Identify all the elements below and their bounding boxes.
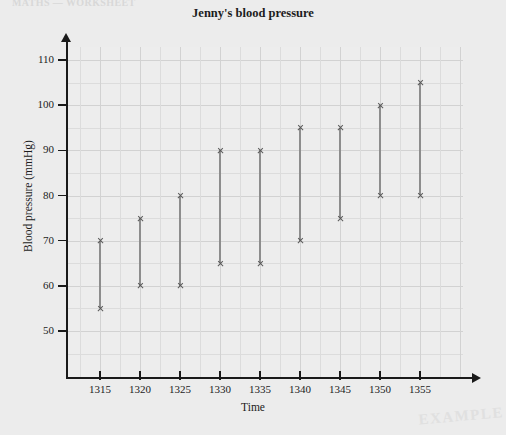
gridline-horizontal [66,173,463,174]
gridline-horizontal [66,105,463,106]
chart-title: Jenny's blood pressure [0,6,506,21]
x-axis-tick [179,371,180,380]
gridline-horizontal [66,150,463,151]
y-axis-tick [58,330,67,331]
marker-high-cross-icon [177,192,184,199]
marker-low-cross-icon [137,282,144,289]
x-axis-tick-label: 1355 [397,383,443,395]
y-axis-tick-label-text: 110 [24,53,54,65]
plot-area [66,47,463,377]
marker-high-cross-icon [297,124,304,131]
marker-low-cross-icon [217,260,224,267]
gridline-vertical [400,47,401,377]
marker-low-cross-icon [97,305,104,312]
gridline-horizontal [66,331,463,332]
gridline-horizontal [66,286,463,287]
y-axis-tick-label-text: 50 [24,324,54,336]
marker-high-cross-icon [137,215,144,222]
y-axis-tick [58,195,67,196]
marker-low-cross-icon [177,282,184,289]
y-axis-tick [58,285,67,286]
y-axis-label: Blood pressure (mmHg) [22,96,34,296]
gridline-vertical [120,47,121,377]
x-axis-tick [99,371,100,380]
gridline-vertical [380,47,381,377]
y-axis-tick [58,59,67,60]
marker-high-cross-icon [257,147,264,154]
gridline-vertical [360,47,361,377]
marker-high-cross-icon [377,102,384,109]
range-bar [99,241,101,309]
marker-high-cross-icon [337,124,344,131]
gridline-vertical [440,47,441,377]
range-bar [419,83,421,196]
marker-high-cross-icon [417,79,424,86]
gridline-vertical [280,47,281,377]
y-axis-arrow-icon [61,33,71,42]
x-axis-tick [339,371,340,380]
marker-low-cross-icon [297,237,304,244]
y-axis-tick-label: 110 [20,53,54,67]
gridline-horizontal [66,308,463,309]
marker-low-cross-icon [377,192,384,199]
x-axis-tick [419,371,420,380]
range-bar [139,218,141,286]
x-axis-arrow-icon [472,373,481,383]
gridline-vertical [460,47,461,377]
gridline-vertical [240,47,241,377]
gridline-horizontal [66,60,463,61]
marker-high-cross-icon [97,237,104,244]
gridline-vertical [200,47,201,377]
y-axis-tick [58,240,67,241]
x-axis-tick [299,371,300,380]
y-axis-line [66,40,68,378]
gridline-horizontal [66,241,463,242]
range-bar [299,128,301,241]
x-axis-tick [259,371,260,380]
marker-low-cross-icon [257,260,264,267]
gridline-horizontal [66,263,463,264]
x-axis-tick [379,371,380,380]
range-bar [259,150,261,263]
marker-low-cross-icon [337,215,344,222]
range-bar [179,196,181,286]
gridline-horizontal [66,128,463,129]
gridline-horizontal [66,218,463,219]
gridline-vertical [320,47,321,377]
marker-high-cross-icon [217,147,224,154]
gridline-horizontal [66,354,463,355]
y-axis-tick-label: 50 [20,324,54,338]
y-axis-tick [58,150,67,151]
gridline-horizontal [66,83,463,84]
worksheet-page: MATHS — WORKSHEET Jenny's blood pressure… [0,0,506,435]
gridline-vertical [100,47,101,377]
gridline-horizontal [66,196,463,197]
marker-low-cross-icon [417,192,424,199]
gridline-vertical [140,47,141,377]
range-bar [219,150,221,263]
y-axis-tick [58,104,67,105]
gridline-vertical [160,47,161,377]
gridline-vertical [80,47,81,377]
x-axis-tick [219,371,220,380]
range-bar [379,105,381,195]
x-axis-tick [139,371,140,380]
x-axis-line [66,377,474,379]
range-bar [339,128,341,218]
